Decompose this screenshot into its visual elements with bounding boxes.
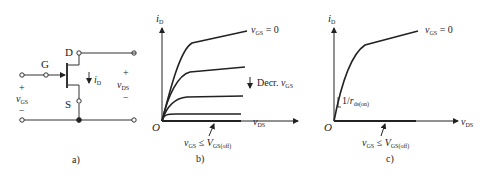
b-origin: O [152, 121, 160, 133]
c-top-curve-label: vGS = 0 [425, 24, 453, 36]
current-label: iD [94, 74, 102, 86]
c-slope-label: 1/rds(on) [342, 95, 369, 108]
c-origin: O [324, 121, 332, 133]
caption-a: a) [72, 154, 80, 166]
b-y-axis-label: iD [156, 12, 164, 25]
c-cutoff-label: vGS ≤ VGS(off) [362, 137, 409, 150]
drain-label: D [65, 46, 73, 58]
panel-c-plot [334, 28, 458, 136]
vds-plus: + [123, 67, 129, 78]
source-label: S [65, 98, 71, 110]
jfet-diagram: G D S iD + vGS − + vDS − a) iD vDS O vGS… [0, 0, 488, 179]
vds-minus: − [123, 92, 129, 103]
caption-b: b) [196, 153, 204, 165]
panel-c-labels: iD vDS O vGS = 0 1/rds(on) vGS ≤ VGS(off… [324, 12, 473, 165]
b-top-curve-label: vGS = 0 [251, 24, 279, 36]
b-cutoff-label: vGS ≤ VGS(off) [184, 137, 231, 150]
b-x-axis-label: vDS [253, 116, 265, 128]
c-y-axis-label: iD [328, 12, 336, 25]
vgs-label: vGS [16, 93, 28, 105]
gate-label: G [41, 58, 49, 70]
vds-label: vDS [117, 79, 129, 91]
b-decr-label: Decr. vGS [257, 77, 293, 89]
vgs-minus: − [19, 105, 25, 116]
panel-a-labels: G D S iD + vGS − + vDS − a) [16, 46, 129, 166]
caption-c: c) [386, 153, 394, 165]
vgs-plus: + [19, 82, 25, 93]
c-x-axis-label: vDS [461, 116, 473, 128]
